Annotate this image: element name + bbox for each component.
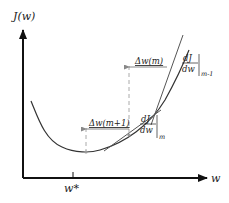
grad-m-1-subscript: m-1 <box>201 70 214 78</box>
grad-m-1-numerator: dJ <box>183 53 192 63</box>
grad-m-numerator: dJ <box>141 114 150 124</box>
y-axis-label: J(w) <box>11 10 35 23</box>
grad-m-1-denominator: dw <box>182 64 195 74</box>
point-m <box>127 133 130 136</box>
gradient-m: dJ dw m <box>140 114 165 141</box>
step-m-label: Δw(m) <box>134 56 163 66</box>
gradient-m-minus-1: dJ dw m-1 <box>182 53 214 78</box>
grad-m-subscript: m <box>159 133 165 141</box>
grad-m-denominator: dw <box>140 125 153 135</box>
step-m1-label: Δw(m+1) <box>88 118 130 128</box>
x-axis-label: w <box>211 172 221 185</box>
point-m1 <box>84 150 87 153</box>
tangent-m-minus-1 <box>151 35 183 125</box>
w-star-label: w* <box>64 182 79 195</box>
gradient-descent-diagram: J(w) w w* Δw(m) Δw(m+1) dJ dw m-1 dJ dw … <box>0 0 229 203</box>
cost-curve <box>31 50 189 152</box>
